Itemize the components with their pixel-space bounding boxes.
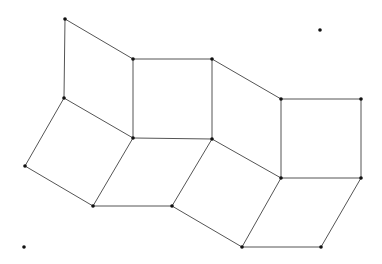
vertex-B — [131, 57, 135, 61]
vertex-D — [279, 97, 283, 101]
edge-G-I — [133, 138, 212, 139]
vertex-I — [210, 137, 214, 141]
vertex-K — [359, 176, 363, 180]
vertex-J — [279, 176, 283, 180]
edge-F-G — [64, 98, 133, 138]
edge-A-B — [65, 19, 133, 59]
isolated-vertex-P — [318, 28, 322, 32]
vertex-C — [210, 57, 214, 61]
vertex-G — [131, 136, 135, 140]
vertex-M — [170, 204, 174, 208]
edge-M-N — [172, 206, 242, 247]
edge-A-F — [64, 19, 65, 98]
vertex-L — [91, 204, 95, 208]
edge-F-H — [25, 98, 64, 166]
isolated-vertex-Q — [22, 245, 26, 249]
edge-I-M — [172, 139, 212, 206]
vertex-N — [240, 245, 244, 249]
vertex-group — [22, 17, 363, 249]
vertex-E — [359, 97, 363, 101]
edge-J-N — [242, 178, 281, 247]
vertex-F — [62, 96, 66, 100]
edge-group — [25, 19, 361, 247]
tiling-diagram — [0, 0, 382, 264]
vertex-A — [63, 17, 67, 21]
vertex-H — [23, 164, 27, 168]
edge-C-D — [212, 59, 281, 99]
edge-G-L — [93, 138, 133, 206]
vertex-O — [319, 245, 323, 249]
edge-K-O — [321, 178, 361, 247]
edge-I-J — [212, 139, 281, 178]
edge-H-L — [25, 166, 93, 206]
